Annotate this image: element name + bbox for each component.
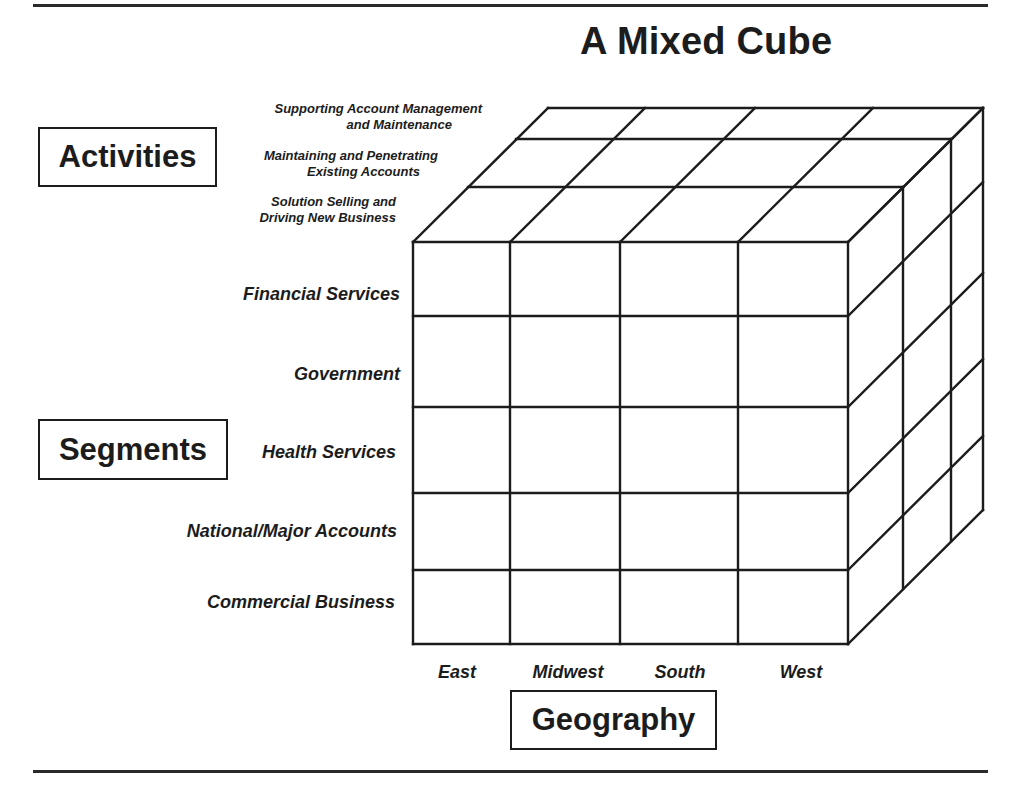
cube-right-diagonal	[848, 359, 983, 493]
bottom-rule	[33, 770, 988, 773]
cube-right-diagonal	[848, 108, 983, 242]
cube-right-diagonal	[848, 510, 983, 644]
cube-top-diagonal	[738, 108, 873, 242]
cube-right-diagonal	[848, 436, 983, 570]
cube-top-diagonal	[620, 108, 755, 242]
cube-diagram	[0, 0, 1010, 790]
cube-right-diagonal	[848, 273, 983, 407]
cube-right-diagonal	[848, 182, 983, 316]
cube-top-diagonal	[510, 108, 645, 242]
cube-top-diagonal	[413, 108, 548, 242]
